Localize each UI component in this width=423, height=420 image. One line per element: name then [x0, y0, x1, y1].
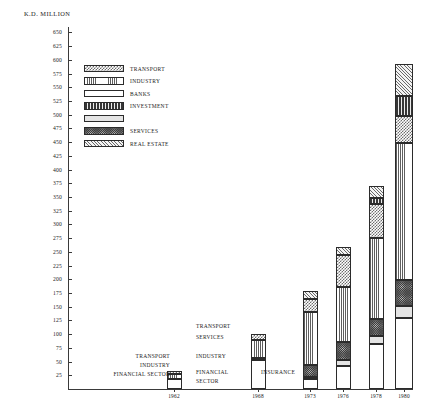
y-axis-tick-label: 200 [36, 276, 62, 282]
y-axis-tick-label: 275 [36, 235, 62, 241]
bar-segment-insurance [336, 360, 351, 365]
legend-item [84, 114, 169, 123]
y-axis-tick-label: 50 [36, 359, 62, 365]
y-axis-tick [68, 362, 72, 363]
bar-1980 [395, 64, 413, 389]
y-axis-tick [68, 266, 72, 267]
y-axis-tick-label: 375 [36, 180, 62, 186]
legend-swatch-industry [84, 77, 124, 85]
bar-segment-services [303, 365, 318, 377]
bar-segment-industry [251, 340, 266, 358]
bar-segment-services [395, 280, 413, 305]
legend-label: TRANSPORT [130, 66, 165, 72]
y-axis-tick [68, 60, 72, 61]
y-axis-tick-label: 475 [36, 125, 62, 131]
y-axis-tick-label: 600 [36, 57, 62, 63]
y-axis-tick-label: 400 [36, 167, 62, 173]
y-axis-tick [68, 74, 72, 75]
annotation-1962-financial-sector: FINANCIAL SECTOR [60, 370, 170, 378]
annotation-1968-financial: FINANCIAL [196, 368, 228, 376]
bar-segment-services [369, 319, 384, 337]
bar-segment-real-estate [336, 247, 351, 255]
y-axis-tick [68, 115, 72, 116]
legend-item: BANKS [84, 89, 169, 98]
x-axis-line [68, 389, 413, 390]
x-axis-tick-label: 1980 [384, 393, 423, 399]
y-axis-tick-label: 450 [36, 139, 62, 145]
annotation-1962-transport: TRANSPORT [74, 352, 170, 360]
legend-item: REAL ESTATE [84, 139, 169, 148]
legend-swatch-investment [84, 102, 124, 110]
y-axis-tick [68, 46, 72, 47]
y-axis-line [68, 27, 69, 390]
bar-segment-transport [251, 334, 266, 339]
y-axis-tick [68, 87, 72, 88]
bar-1973 [303, 291, 318, 389]
legend-swatch-real-estate [84, 140, 124, 148]
bar-segment-investment [369, 198, 384, 203]
bar-segment-industry [336, 287, 351, 342]
x-axis-tick-label: 1968 [238, 393, 278, 399]
bar-segment-banks [395, 318, 413, 389]
bar-segment-real-estate [395, 64, 413, 96]
y-axis-tick [68, 170, 72, 171]
legend-item: INDUSTRY [84, 76, 169, 85]
bar-segment-banks [336, 366, 351, 389]
bar-segment-investment [395, 96, 413, 116]
x-axis-tick-label: 1962 [154, 393, 194, 399]
bar-segment-transport [303, 299, 318, 312]
x-axis-tick [404, 389, 405, 392]
y-axis-tick [68, 334, 72, 335]
y-axis-tick [68, 238, 72, 239]
bar-segment-services [336, 342, 351, 361]
bar-segment-banks [303, 379, 318, 389]
bar-segment-banks [167, 379, 182, 389]
annotation-1968-transport: TRANSPORT [196, 322, 230, 330]
y-axis-tick-label: 75 [36, 345, 62, 351]
legend-label: REAL ESTATE [130, 141, 169, 147]
y-axis-tick-label: 175 [36, 290, 62, 296]
legend-item: INVESTMENT [84, 101, 169, 110]
x-axis-tick [258, 389, 259, 392]
bar-1978 [369, 186, 384, 389]
y-axis-tick [68, 293, 72, 294]
chart-legend: TRANSPORTINDUSTRYBANKSINVESTMENTSERVICES… [84, 64, 169, 151]
legend-label: INDUSTRY [130, 78, 160, 84]
y-axis-tick-label: 425 [36, 153, 62, 159]
annotation-1968-industry: INDUSTRY [196, 352, 226, 360]
x-axis-tick [310, 389, 311, 392]
y-axis-tick-label: 550 [36, 84, 62, 90]
legend-swatch-banks [84, 90, 124, 98]
bar-segment-insurance [303, 377, 318, 379]
x-axis-tick [174, 389, 175, 392]
y-axis-title: K.D. MILLION [24, 10, 70, 17]
y-axis-tick [68, 307, 72, 308]
y-axis-tick [68, 197, 72, 198]
y-axis-tick [68, 279, 72, 280]
y-axis-tick-label: 250 [36, 249, 62, 255]
bar-segment-banks [369, 344, 384, 389]
y-axis-tick [68, 348, 72, 349]
y-axis-tick-label: 225 [36, 263, 62, 269]
legend-swatch-transport [84, 65, 124, 73]
y-axis-tick-label: 325 [36, 208, 62, 214]
y-axis-tick [68, 32, 72, 33]
legend-label: INVESTMENT [130, 103, 169, 109]
bar-segment-transport [336, 255, 351, 287]
legend-item: TRANSPORT [84, 64, 169, 73]
bar-segment-real-estate [369, 186, 384, 198]
y-axis-tick [68, 101, 72, 102]
y-axis-tick [68, 211, 72, 212]
bar-segment-services [251, 358, 266, 361]
bar-segment-industry [369, 238, 384, 319]
y-axis-tick-label: 25 [36, 372, 62, 378]
y-axis-tick [68, 142, 72, 143]
x-axis-tick [343, 389, 344, 392]
legend-label: SERVICES [130, 128, 158, 134]
legend-label: BANKS [130, 91, 150, 97]
bar-1968 [251, 334, 266, 389]
y-axis-tick-label: 650 [36, 29, 62, 35]
legend-item: SERVICES [84, 126, 169, 135]
annotation-1962-industry: INDUSTRY [74, 361, 170, 369]
y-axis-tick-label: 575 [36, 71, 62, 77]
